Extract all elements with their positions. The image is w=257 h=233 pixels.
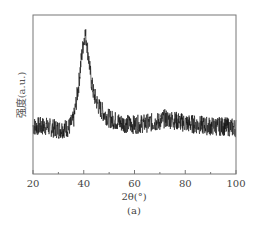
x-tick-label: 60 (128, 178, 141, 189)
xrd-series-line (33, 29, 236, 138)
figure-caption: (a) (127, 205, 141, 216)
y-axis-label: 强度(a.u.) (13, 72, 28, 119)
x-tick-label: 80 (179, 178, 192, 189)
plot-frame (33, 15, 236, 174)
x-tick-label: 100 (226, 178, 245, 189)
x-axis-label: 2θ(°) (121, 191, 146, 202)
x-tick-label: 40 (77, 178, 90, 189)
x-axis-ticks (33, 170, 236, 174)
x-tick-label: 20 (27, 178, 40, 189)
